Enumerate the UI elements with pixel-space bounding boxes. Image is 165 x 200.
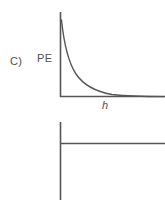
option-d-plot — [0, 115, 165, 200]
option-c-letter: C) — [10, 55, 22, 68]
option-c-x-axis-label: h — [102, 99, 108, 112]
option-d-block: D) PE — [0, 115, 165, 200]
option-c-plot — [0, 0, 165, 115]
answer-options-figure: C) PE h D) PE — [0, 0, 165, 200]
option-c-y-axis-label: PE — [37, 52, 52, 65]
option-c-curve — [62, 20, 165, 97]
option-c-block: C) PE h — [0, 0, 165, 115]
